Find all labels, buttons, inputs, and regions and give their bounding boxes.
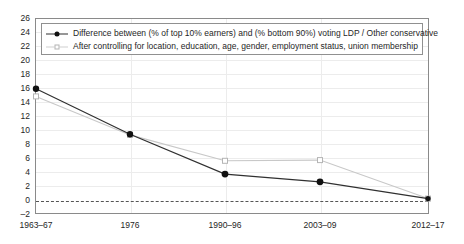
legend-key-open-square-icon (46, 41, 68, 53)
point-s1-2012-17 (425, 196, 430, 201)
x-tick-1976: 1976 (102, 221, 158, 230)
legend: Difference between (% of top 10% earners… (41, 23, 423, 55)
legend-key-filled-circle-icon (46, 28, 68, 40)
series-difference-top10-bottom90 (33, 86, 431, 202)
point-s1-1963-67 (33, 86, 39, 92)
chart-container: 26 24 22 20 18 16 14 12 10 8 6 4 2 0 –2 (0, 0, 464, 244)
series-after-controlling (34, 94, 431, 201)
point-s1-1976 (127, 131, 133, 137)
point-s2-1990-96 (223, 158, 228, 163)
point-s1-1990-96 (222, 171, 229, 178)
legend-label-difference: Difference between (% of top 10% earners… (73, 29, 438, 38)
legend-label-after-controlling: After controlling for location, educatio… (73, 42, 418, 51)
x-tick-1963-67: 1963–67 (6, 221, 66, 230)
x-tick-2003-09: 2003–09 (290, 221, 350, 230)
point-s2-1963-67 (34, 94, 39, 99)
point-s2-2003-09 (318, 158, 323, 163)
point-s1-2003-09 (317, 178, 324, 185)
x-tick-1990-96: 1990–96 (195, 221, 255, 230)
legend-item-after-controlling: After controlling for location, educatio… (46, 40, 417, 53)
legend-item-difference: Difference between (% of top 10% earners… (46, 27, 417, 40)
x-tick-2012-17: 2012–17 (398, 221, 458, 230)
